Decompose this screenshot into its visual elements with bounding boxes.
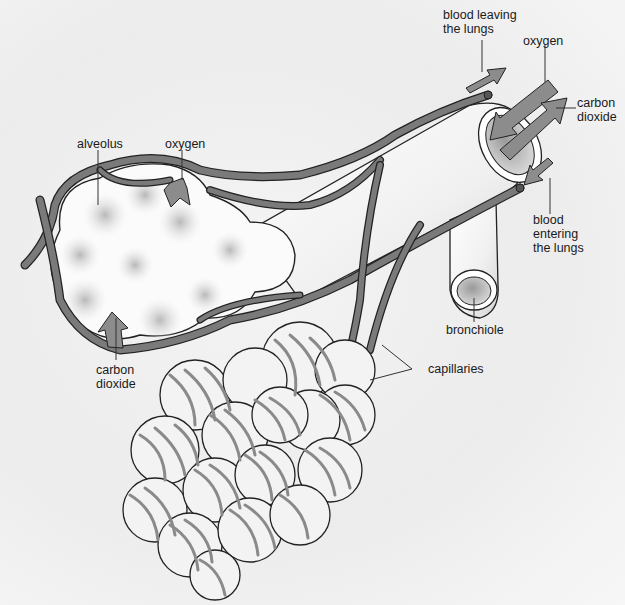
blood-leaving-arrow-icon [466,68,506,93]
label-line: the lungs [533,241,584,255]
label-line: carbon [577,96,617,110]
label-line: dioxide [96,377,136,391]
label-blood-leaving: blood leaving the lungs [443,8,517,36]
label-line: blood leaving [443,8,517,22]
alveoli-diagram: blood leaving the lungs oxygen carbon di… [0,0,625,605]
diagram-illustration [0,0,625,605]
label-line: entering [533,227,584,241]
label-oxygen-top: oxygen [523,34,563,48]
label-line: blood [533,213,584,227]
label-line: dioxide [577,110,617,124]
label-alveolus: alveolus [77,137,123,151]
label-line: carbon [96,363,136,377]
label-capillaries: capillaries [428,362,484,376]
label-bronchiole: bronchiole [446,323,504,337]
label-oxygen-alveolus: oxygen [165,137,205,151]
label-blood-entering: blood entering the lungs [533,213,584,255]
label-carbon-dioxide-bottom: carbon dioxide [96,363,136,391]
label-line: the lungs [443,22,517,36]
label-carbon-dioxide-top: carbon dioxide [577,96,617,124]
